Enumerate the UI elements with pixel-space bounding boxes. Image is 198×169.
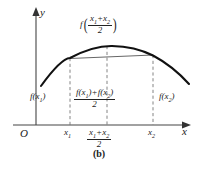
- label-average-of-f-num-f2-close: ): [110, 87, 113, 97]
- x-axis-label: x: [182, 126, 187, 137]
- label-f-of-midpoint-open-paren: (: [83, 17, 87, 33]
- x-tick-label-x2-sub: 2: [152, 133, 155, 139]
- origin-label: O: [20, 128, 28, 139]
- x-tick-label-midpoint: x1+x2 2: [87, 128, 111, 150]
- x-tick-label-midpoint-num-b-sub: 2: [106, 133, 109, 139]
- x-tick-label-x2: x2: [148, 128, 155, 139]
- label-f-x1: f(x1): [30, 92, 46, 103]
- x-tick-label-midpoint-fraction: x1+x2 2: [87, 128, 111, 150]
- x-tick-label-x1-sub: 1: [68, 133, 71, 139]
- x-tick-label-x1: x1: [64, 128, 71, 139]
- label-average-of-f: f(x1)+f(x2) 2: [74, 88, 115, 110]
- function-curve: [41, 46, 189, 86]
- label-f-x2-close-paren: ): [172, 91, 175, 101]
- label-average-of-f-denominator: 2: [74, 100, 115, 109]
- label-f-x2: f(x2): [159, 92, 175, 103]
- y-axis-arrowhead: [32, 7, 39, 16]
- figure-caption: (b): [0, 148, 198, 159]
- label-f-x1-close-paren: ): [43, 91, 46, 101]
- label-f-of-midpoint-denominator: 2: [88, 26, 112, 35]
- label-f-of-midpoint-close-paren: ): [113, 17, 117, 33]
- label-f-of-midpoint-fname: f: [80, 20, 83, 29]
- label-average-of-f-fraction: f(x1)+f(x2) 2: [74, 88, 115, 110]
- label-f-of-midpoint-fraction: x1+x22: [88, 14, 112, 36]
- figure-container: f(x1+x22) f(x1) f(x2) f(x1)+f(x2) 2 y x …: [0, 0, 198, 169]
- label-f-of-midpoint-num-b-sub: 2: [107, 19, 110, 25]
- label-f-of-midpoint: f(x1+x22): [80, 14, 118, 36]
- chord-line: [70, 55, 153, 59]
- y-axis-label: y: [40, 7, 45, 18]
